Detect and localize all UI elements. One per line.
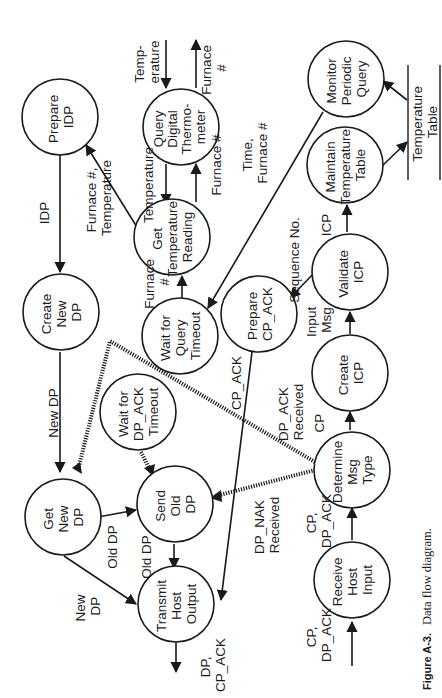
label-temperature-qdt-gtr: Temperature [141, 147, 156, 223]
label-icp: ICP [319, 214, 334, 237]
process-maintain-temperature-table: Maintain Temperature Table [307, 125, 383, 205]
process-send-old-dp: Send Old DP [137, 466, 213, 542]
data-store-temperature-table: Temperature Table [408, 65, 440, 180]
svg-text:Wait for Query Tim: Wait for Query Timeout [158, 311, 203, 361]
label-old-dp-1: Old DP [105, 525, 120, 569]
process-create-new-dp: Create New DP [23, 274, 99, 350]
store-label-line: Temperature [410, 86, 425, 162]
svg-text:Temperature Table: Temperature Table [410, 82, 440, 162]
process-get-new-dp: Get New DP [25, 479, 101, 555]
label-furnace-out: Furnace # [199, 41, 229, 94]
flow-store-mpq [383, 81, 407, 100]
label-input-msg: Input Msg [304, 303, 334, 337]
figure-caption: Figure A-3. Data flow diagram. [417, 528, 434, 690]
label-temperature-in: Temp- erature [132, 41, 162, 84]
label-new-dp-2: New DP [73, 591, 103, 622]
data-flow-diagram: Temperature Table Prepare IDP Query Digi… [0, 0, 442, 698]
process-monitor-periodic-query: Monitor Periodic Query [308, 41, 384, 117]
flow-old-dp-1 [98, 510, 136, 517]
process-validate-icp: Validate ICP [312, 234, 388, 310]
process-wait-for-dp-ack-timeout: Wait for DP_ACK Timeout [100, 374, 176, 450]
label-furnace-temp-idp: Furnace #, Temperature [84, 160, 114, 236]
svg-text:Wait for DP_ACK Ti: Wait for DP_ACK Timeout [116, 383, 161, 441]
process-prepare-idp: Prepare IDP [22, 79, 98, 155]
label-cp: CP [312, 414, 327, 433]
label-dp-nak-received: DP_NAK Received [252, 496, 282, 554]
label-new-dp-1: New DP [46, 388, 61, 438]
process-receive-host-input: Receive Host Input [314, 542, 390, 618]
label-furnace-gtr-qdt: Furnace # [209, 134, 224, 195]
label-dp-ack-received: DP_ACK Received [276, 383, 306, 441]
process-prepare-cp-ack: Prepare CP_ACK [221, 276, 297, 352]
caption-label: Figure A-3. [421, 633, 433, 690]
flow-mtt-store [381, 142, 407, 167]
store-label-line: Table [425, 106, 440, 138]
label-idp: IDP [37, 202, 52, 225]
control-flow-dp-nak-received [216, 470, 315, 496]
svg-text:Figure A-3. Data flow di: Figure A-3. Data flow diagram. [417, 528, 434, 690]
label-dp-cp-ack: DP, CP_ACK [198, 638, 228, 692]
label-old-dp-2: Old DP [139, 535, 154, 579]
process-create-icp: Create ICP [312, 335, 388, 411]
label-time-furnace: Time, Furnace # [240, 122, 270, 183]
label-cp-ack: CP_ACK [229, 356, 244, 410]
label-sequence-no: Sequence No. [287, 217, 302, 303]
caption-text: Data flow diagram. [420, 528, 434, 625]
label-cp-dp-ack-in: CP, DP_ACK [304, 608, 334, 662]
svg-text:Prepare CP_ACK: Prepare CP_ACK [245, 287, 275, 341]
label-cp-dp-ack-1: CP, DP_ACK [304, 494, 334, 548]
